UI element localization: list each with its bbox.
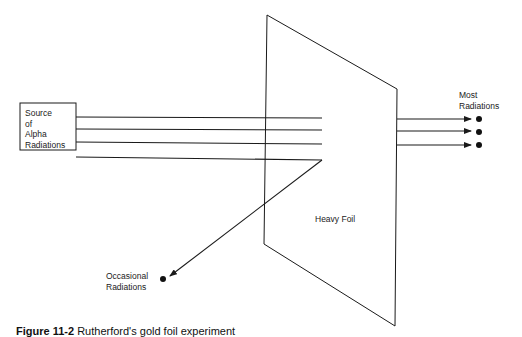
most-radiations-label: Most Radiations bbox=[459, 90, 499, 111]
figure-caption: Figure 11-2 Rutherford's gold foil exper… bbox=[16, 325, 235, 337]
occasional-radiations-label: Occasional Radiations bbox=[106, 271, 148, 292]
heavy-foil bbox=[264, 15, 397, 326]
most-radiation-dots bbox=[476, 116, 482, 148]
figure-caption-text: Rutherford's gold foil experiment bbox=[77, 325, 235, 337]
deflected-beam bbox=[170, 160, 322, 276]
incoming-beam-4 bbox=[76, 157, 322, 160]
incoming-beam-2 bbox=[76, 129, 322, 130]
transmitted-beams bbox=[397, 119, 471, 145]
source-label: Source of Alpha Radiations bbox=[25, 108, 65, 150]
incoming-beam-1 bbox=[76, 117, 322, 118]
incoming-beams bbox=[76, 117, 322, 160]
incoming-beam-3 bbox=[76, 142, 322, 144]
dot-icon bbox=[476, 116, 482, 122]
dot-icon bbox=[476, 142, 482, 148]
figure-number: Figure 11-2 bbox=[16, 325, 74, 337]
occasional-dot-icon bbox=[160, 276, 166, 282]
dot-icon bbox=[476, 129, 482, 135]
foil-label: Heavy Foil bbox=[315, 214, 355, 225]
